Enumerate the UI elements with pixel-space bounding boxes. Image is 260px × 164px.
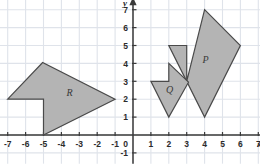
y-tick-label: 4 [123, 59, 128, 69]
x-tick-label: 5 [220, 139, 225, 149]
x-tick-label: -5 [40, 139, 48, 149]
x-axis-label: x [256, 139, 260, 149]
coordinate-plane-figure: -7-6-5-4-3-2-11234567-112345670 PQR x y [0, 0, 260, 164]
x-tick-label: 3 [184, 139, 189, 149]
shape-label-q: Q [166, 84, 174, 95]
y-tick-label: -1 [120, 148, 128, 158]
y-tick-label: 2 [123, 94, 128, 104]
shape-label-p: P [201, 54, 208, 65]
origin-label: 0 [123, 139, 128, 149]
coordinate-plot: -7-6-5-4-3-2-11234567-112345670 PQR x y [0, 0, 260, 164]
x-tick-label: -3 [76, 139, 84, 149]
x-tick-label: -6 [22, 139, 30, 149]
x-tick-label: 4 [202, 139, 207, 149]
x-tick-label: -4 [58, 139, 66, 149]
x-tick-label: 6 [238, 139, 243, 149]
y-tick-label: 1 [123, 112, 128, 122]
x-tick-label: -7 [4, 139, 12, 149]
x-tick-label: 2 [166, 139, 171, 149]
x-tick-label: -1 [111, 139, 119, 149]
y-tick-label: 6 [123, 23, 128, 33]
x-tick-label: -2 [93, 139, 101, 149]
shape-label-r: R [65, 87, 72, 98]
y-tick-label: 3 [123, 77, 128, 87]
y-tick-label: 5 [123, 41, 128, 51]
x-tick-label: 1 [149, 139, 154, 149]
